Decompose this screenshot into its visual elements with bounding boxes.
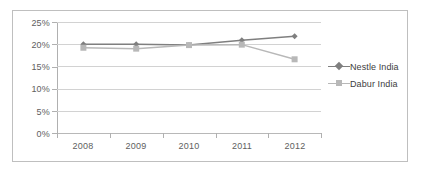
data-point-2009	[133, 46, 139, 52]
data-point-2008	[80, 45, 86, 51]
data-point-2010	[186, 42, 192, 48]
legend-item-nestle-india[interactable]: Nestle India	[328, 58, 406, 75]
legend-item-dabur-india[interactable]: Dabur India	[328, 75, 406, 92]
chart-container: 25% 20% 15% 10% 5% 0% 2008 2009 2010 201…	[0, 0, 422, 177]
data-point-2012	[292, 33, 298, 39]
legend-label-dabur-india: Dabur India	[350, 79, 398, 89]
legend-label-nestle-india: Nestle India	[350, 62, 399, 72]
data-point-2011	[239, 42, 245, 48]
chart-legend: Nestle India Dabur India	[328, 58, 406, 92]
data-point-2012	[292, 56, 298, 62]
legend-marker-square-icon	[328, 78, 350, 89]
legend-marker-diamond-icon	[328, 61, 350, 72]
